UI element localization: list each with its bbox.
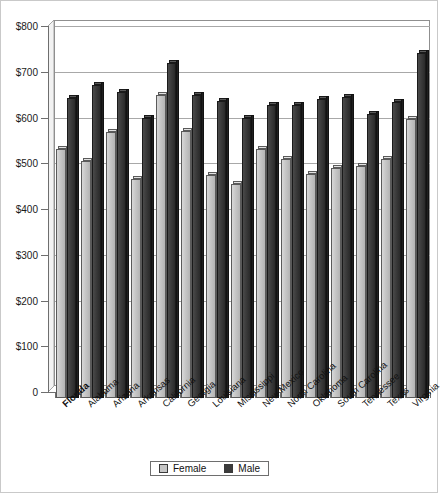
bar-side-face	[201, 92, 204, 398]
y-axis-tick-label: $700	[16, 66, 38, 77]
y-axis-tick-mark	[41, 163, 48, 164]
bar	[367, 114, 377, 398]
bar-side-face	[151, 115, 154, 398]
bar-side-face	[401, 99, 404, 398]
gridline	[55, 72, 430, 73]
bar	[392, 102, 402, 398]
bar-front-face	[267, 105, 277, 398]
bar-side-face	[326, 96, 329, 398]
x-axis: FloridaAlabamaArizonaArkansasCaliforniaG…	[48, 392, 430, 492]
bar-front-face	[92, 85, 102, 398]
bar-side-face	[276, 102, 279, 398]
bar	[256, 149, 266, 398]
bar	[356, 166, 366, 398]
bar-front-face	[117, 92, 127, 398]
bar	[306, 174, 316, 398]
bar-side-face	[301, 102, 304, 398]
bar	[267, 105, 277, 398]
y-axis-tick-label: $200	[16, 295, 38, 306]
bar	[92, 85, 102, 398]
bar-side-face	[226, 98, 229, 398]
y-axis-tick-mark	[41, 346, 48, 347]
y-axis-tick-label: $600	[16, 112, 38, 123]
bar	[317, 99, 327, 398]
bar-front-face	[306, 174, 316, 398]
bar	[67, 98, 77, 398]
bar-front-face	[192, 95, 202, 398]
bar-front-face	[106, 132, 116, 398]
bar-front-face	[317, 99, 327, 398]
bar-front-face	[292, 105, 302, 398]
bar-front-face	[242, 118, 252, 398]
bar-side-face	[426, 50, 429, 398]
bar-front-face	[56, 149, 66, 398]
legend-item-female: Female	[159, 463, 206, 474]
bar-front-face	[256, 149, 266, 398]
bar-front-face	[417, 53, 427, 398]
y-axis-tick-mark	[41, 301, 48, 302]
bar	[206, 175, 216, 398]
bar-front-face	[367, 114, 377, 398]
bar	[117, 92, 127, 398]
bar-front-face	[81, 161, 91, 398]
bar	[342, 97, 352, 398]
y-axis-tick-label: $300	[16, 249, 38, 260]
bar-front-face	[406, 119, 416, 398]
legend-label: Male	[238, 463, 260, 474]
bar-front-face	[392, 102, 402, 398]
bar	[231, 184, 241, 398]
bar-front-face	[281, 159, 291, 398]
y-axis-tick-label: $100	[16, 341, 38, 352]
y-axis-tick-label: 0	[32, 387, 38, 398]
bar-front-face	[142, 118, 152, 398]
y-axis-tick-mark	[41, 118, 48, 119]
bar	[242, 118, 252, 398]
y-axis-tick-mark	[41, 392, 48, 393]
x-axis-tick-mark	[55, 392, 56, 398]
bar	[292, 105, 302, 398]
bar	[106, 132, 116, 398]
legend-item-male: Male	[224, 463, 260, 474]
bar-front-face	[231, 184, 241, 398]
bar	[167, 63, 177, 398]
bar	[281, 159, 291, 398]
bar-front-face	[131, 179, 141, 398]
y-axis-tick-mark	[41, 26, 48, 27]
plot-area	[48, 20, 430, 392]
legend-swatch-female-icon	[159, 464, 168, 473]
bar-front-face	[217, 101, 227, 398]
bar	[417, 53, 427, 398]
bar-front-face	[181, 131, 191, 398]
bar-side-face	[76, 95, 79, 398]
bar-front-face	[206, 175, 216, 398]
y-axis-tick-label: $400	[16, 204, 38, 215]
y-axis-labels: 0$100$200$300$400$500$600$700$800	[0, 0, 42, 494]
bar-side-face	[101, 82, 104, 398]
bar-side-face	[126, 89, 129, 398]
gridline	[55, 26, 430, 27]
bar-front-face	[356, 166, 366, 398]
bar	[406, 119, 416, 398]
bar	[131, 179, 141, 398]
bar-side-face	[251, 115, 254, 398]
bar	[142, 118, 152, 398]
y-axis-tick-label: $800	[16, 21, 38, 32]
bar-front-face	[167, 63, 177, 398]
bar	[192, 95, 202, 398]
bar	[56, 149, 66, 398]
y-axis-line	[48, 26, 49, 392]
bar-side-face	[176, 60, 179, 398]
y-axis-tick-mark	[41, 255, 48, 256]
bar-side-face	[376, 111, 379, 398]
legend-swatch-male-icon	[224, 464, 233, 473]
chart-legend: FemaleMale	[150, 461, 269, 476]
y-axis-tick-mark	[41, 209, 48, 210]
bar	[81, 161, 91, 398]
bar	[181, 131, 191, 398]
bar-front-face	[156, 95, 166, 398]
legend-label: Female	[173, 463, 206, 474]
bar	[156, 95, 166, 398]
bar-side-face	[351, 94, 354, 398]
bar-front-face	[67, 98, 77, 398]
